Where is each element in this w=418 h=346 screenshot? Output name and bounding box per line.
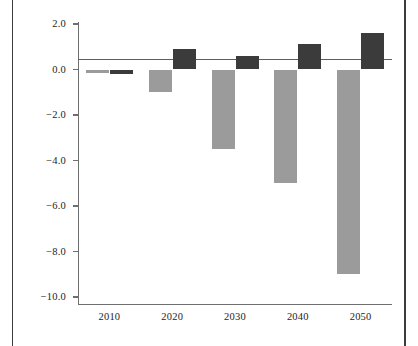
y-axis-tick-label: −10.0: [41, 292, 66, 302]
bar-gray-series-2020: [149, 70, 172, 93]
x-axis-spine: [78, 304, 392, 305]
y-axis-tick: [73, 114, 78, 115]
bar-gray-series-2050: [337, 70, 360, 275]
y-axis-tick: [73, 23, 78, 24]
bar-dark-series-2010: [110, 70, 133, 75]
bar-dark-series-2030: [236, 56, 259, 70]
y-axis-tick-label: −4.0: [46, 156, 66, 166]
x-axis-tick-label: 2030: [224, 311, 246, 322]
y-axis-tick-labels: 2.00.0−2.0−4.0−6.0−8.0−10.0: [0, 22, 74, 305]
x-axis-tick-label: 2050: [350, 311, 372, 322]
y-axis-spine: [78, 22, 79, 305]
bar-gray-series-2030: [212, 70, 235, 150]
bar-gray-series-2010: [86, 70, 109, 73]
x-axis-tick-label: 2010: [98, 311, 120, 322]
bar-chart: percent of gross domestic product 2.00.0…: [0, 0, 418, 346]
y-axis-tick-label: −6.0: [46, 201, 66, 211]
y-axis-tick: [73, 296, 78, 297]
x-axis-tick-labels: 20102020203020402050: [78, 311, 392, 331]
x-axis-tick-label: 2040: [287, 311, 309, 322]
y-axis-tick-label: 2.0: [52, 19, 66, 29]
y-axis-tick-label: −8.0: [46, 247, 66, 257]
y-axis-tick: [73, 251, 78, 252]
y-axis-tick: [73, 69, 78, 70]
bar-dark-series-2040: [298, 44, 321, 69]
y-axis-tick-label: 0.0: [52, 65, 66, 75]
bar-dark-series-2050: [361, 33, 384, 69]
x-axis-tick-label: 2020: [161, 311, 183, 322]
y-axis-tick: [73, 160, 78, 161]
plot-area: [78, 22, 392, 305]
bar-gray-series-2040: [274, 70, 297, 184]
y-axis-tick: [73, 205, 78, 206]
bar-dark-series-2020: [173, 49, 196, 69]
y-axis-tick-label: −2.0: [46, 110, 66, 120]
